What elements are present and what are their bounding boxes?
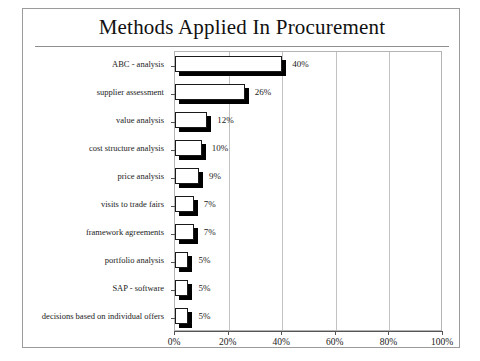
bar-face bbox=[175, 252, 188, 268]
title-underline bbox=[35, 46, 449, 47]
x-tick bbox=[335, 331, 336, 335]
bar bbox=[175, 308, 192, 324]
category-label: visits to trade fairs bbox=[101, 199, 164, 209]
bar bbox=[175, 280, 192, 296]
category-label: price analysis bbox=[118, 171, 165, 181]
chart-title: Methods Applied In Procurement bbox=[23, 15, 461, 40]
bar-face bbox=[175, 224, 194, 240]
bar-row: 26% bbox=[175, 80, 441, 108]
category-label: portfolio analysis bbox=[105, 255, 164, 265]
bar bbox=[175, 252, 192, 268]
bar bbox=[175, 84, 249, 100]
bar-row: 5% bbox=[175, 304, 441, 332]
bar-value-label: 9% bbox=[209, 171, 221, 181]
bar-value-label: 5% bbox=[198, 283, 210, 293]
bar-value-label: 7% bbox=[204, 227, 216, 237]
bar-value-label: 12% bbox=[217, 115, 234, 125]
bar-row: 40% bbox=[175, 52, 441, 80]
bar-value-label: 5% bbox=[198, 311, 210, 321]
bar-face bbox=[175, 140, 202, 156]
category-label: framework agreements bbox=[86, 227, 164, 237]
chart-frame: Methods Applied In Procurement ABC - ana… bbox=[22, 8, 460, 348]
x-axis-line bbox=[174, 331, 442, 332]
bar-face bbox=[175, 56, 282, 72]
bar-row: 7% bbox=[175, 220, 441, 248]
bar-row: 5% bbox=[175, 248, 441, 276]
x-tick bbox=[174, 331, 175, 335]
bar bbox=[175, 196, 198, 212]
bar-face bbox=[175, 308, 188, 324]
bar-face bbox=[175, 112, 207, 128]
category-label: cost structure analysis bbox=[89, 143, 164, 153]
bar-face bbox=[175, 280, 188, 296]
bar-face bbox=[175, 196, 194, 212]
x-tick bbox=[442, 331, 443, 335]
x-tick-label: 20% bbox=[219, 337, 236, 347]
category-label: SAP - software bbox=[112, 283, 164, 293]
x-tick-label: 60% bbox=[326, 337, 343, 347]
bar-value-label: 7% bbox=[204, 199, 216, 209]
bar-value-label: 40% bbox=[292, 59, 309, 69]
x-tick-label: 40% bbox=[272, 337, 289, 347]
bar-value-label: 10% bbox=[212, 143, 229, 153]
bar-row: 9% bbox=[175, 164, 441, 192]
category-axis-labels: ABC - analysissupplier assessmentvalue a… bbox=[23, 51, 169, 331]
bar-row: 10% bbox=[175, 136, 441, 164]
x-tick bbox=[388, 331, 389, 335]
bar bbox=[175, 168, 203, 184]
bar-face bbox=[175, 84, 245, 100]
x-tick-label: 0% bbox=[168, 337, 181, 347]
bar-value-label: 26% bbox=[255, 87, 272, 97]
x-tick-label: 100% bbox=[431, 337, 453, 347]
bar bbox=[175, 56, 286, 72]
bar-row: 12% bbox=[175, 108, 441, 136]
plot-area: 40%26%12%10%9%7%7%5%5%5% bbox=[174, 51, 442, 331]
x-tick bbox=[281, 331, 282, 335]
bar-series: 40%26%12%10%9%7%7%5%5%5% bbox=[175, 52, 441, 330]
bar-value-label: 5% bbox=[198, 255, 210, 265]
bar-row: 7% bbox=[175, 192, 441, 220]
category-label: supplier assessment bbox=[97, 87, 164, 97]
bar bbox=[175, 140, 206, 156]
category-label: decisions based on individual offers bbox=[42, 311, 164, 321]
bar-row: 5% bbox=[175, 276, 441, 304]
bar bbox=[175, 112, 211, 128]
bar bbox=[175, 224, 198, 240]
x-tick-label: 80% bbox=[380, 337, 397, 347]
bar-face bbox=[175, 168, 199, 184]
category-label: value analysis bbox=[116, 115, 164, 125]
x-tick bbox=[228, 331, 229, 335]
category-label: ABC - analysis bbox=[112, 59, 164, 69]
